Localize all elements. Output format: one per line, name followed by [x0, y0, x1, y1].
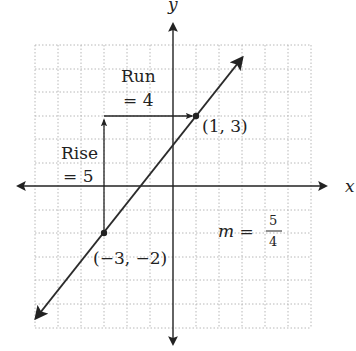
point-neg3-neg2 — [101, 230, 107, 236]
coordinate-plane: y x (1, 3) (−3, −2) Run = 4 Rise = 5 m =… — [0, 0, 356, 351]
slope-numerator: 5 — [269, 213, 277, 228]
point-1-3 — [193, 113, 199, 119]
slope-formula: m = 5 4 — [218, 213, 282, 249]
point-label-neg3-neg2: (−3, −2) — [93, 248, 167, 268]
slope-denominator: 4 — [269, 234, 277, 249]
point-label-1-3: (1, 3) — [202, 116, 248, 136]
run-value: = 4 — [123, 90, 153, 110]
slope-m: m = — [218, 221, 254, 241]
rise-label: Rise — [61, 143, 98, 163]
rise-value: = 5 — [63, 166, 93, 186]
run-label: Run — [121, 66, 156, 86]
y-axis-label: y — [167, 0, 178, 14]
x-axis-label: x — [345, 176, 355, 196]
